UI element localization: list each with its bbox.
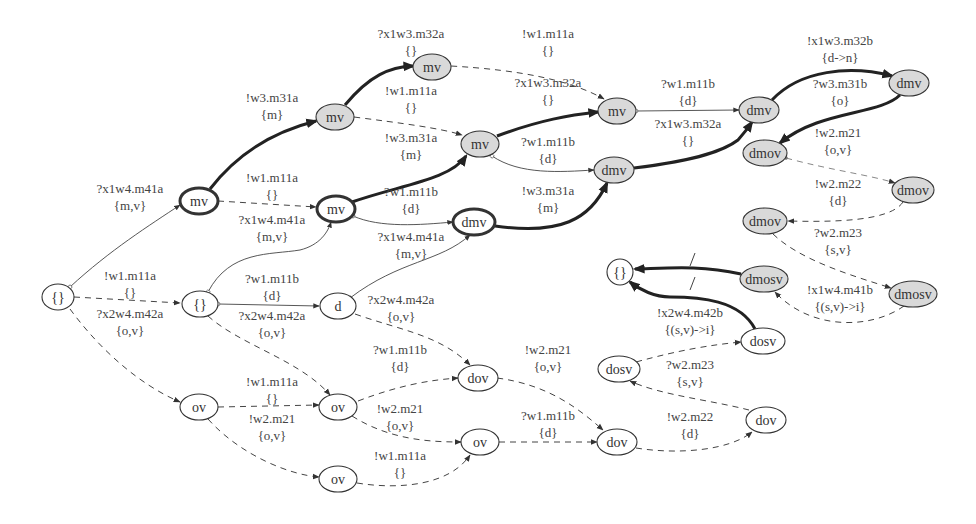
edge-action-label: !w2.m21 bbox=[377, 401, 424, 416]
edge-action-label: !w2.m22 bbox=[815, 176, 862, 191]
edge-set-label: {o,v} bbox=[116, 323, 145, 338]
state-node[interactable]: dmov bbox=[892, 177, 934, 203]
state-node[interactable]: mv bbox=[461, 131, 499, 157]
edge-set-label: {d->n} bbox=[821, 50, 858, 65]
state-label: dmosv bbox=[745, 272, 782, 287]
state-label: d bbox=[335, 299, 342, 314]
state-graph: ?x1w4.m41a{m,v}!w1.m11a{}?x2w4.m42a{o,v}… bbox=[0, 0, 976, 524]
edge-action-label: !w1.m11a bbox=[374, 448, 426, 463]
state-node[interactable]: ov bbox=[461, 429, 499, 455]
transition-edge bbox=[636, 110, 739, 111]
edge-set-label: {d} bbox=[679, 93, 698, 108]
state-node[interactable]: dmv bbox=[453, 209, 495, 235]
edge-set-label: {} bbox=[405, 100, 417, 115]
edge-action-label: ?w2.m23 bbox=[666, 357, 714, 372]
transition-edge bbox=[635, 268, 741, 274]
edge-action-label: !w3.m31a bbox=[246, 90, 299, 105]
state-label: dmv bbox=[897, 76, 922, 91]
edge-action-label: !w2.m21 bbox=[249, 411, 296, 426]
edge-set-label: {m} bbox=[261, 107, 284, 122]
edge-set-label: {o,v} bbox=[387, 309, 416, 324]
state-node[interactable]: mv bbox=[413, 54, 451, 80]
edge-set-label: {o} bbox=[831, 93, 850, 108]
edge-action-label: ?w1.m11b bbox=[521, 408, 575, 423]
state-node[interactable]: mv bbox=[317, 196, 355, 222]
edge-set-label: {d} bbox=[829, 193, 848, 208]
edge-action-label: ?x1w3.m32a bbox=[655, 116, 722, 131]
edge-action-label: !w1.m11a bbox=[246, 170, 298, 185]
edge-action-label: ?w1.m11b bbox=[245, 271, 299, 286]
state-label: dmv bbox=[747, 103, 772, 118]
state-label: dmv bbox=[602, 163, 627, 178]
edge-action-label: ?w3.m31b bbox=[813, 76, 868, 91]
edge-set-label: {} bbox=[266, 187, 278, 202]
state-node[interactable]: {} bbox=[42, 284, 74, 310]
state-label: mv bbox=[326, 110, 344, 125]
edge-set-label: {o,v} bbox=[824, 142, 853, 157]
edge-set-label: {o,v} bbox=[258, 428, 287, 443]
edge-set-label: {m,v} bbox=[256, 229, 288, 244]
edge-action-label: ?x1w3.m32a bbox=[515, 75, 582, 90]
state-node[interactable]: ov bbox=[319, 466, 357, 492]
state-node[interactable]: ov bbox=[319, 394, 357, 420]
edge-action-label: ?w1.m11b bbox=[384, 184, 438, 199]
state-node[interactable]: dosv bbox=[741, 328, 785, 354]
state-label: mv bbox=[471, 137, 489, 152]
state-node[interactable]: {} bbox=[182, 291, 218, 317]
edge-action-label: !x1w3.m32b bbox=[807, 33, 873, 48]
edge-set-label: {} bbox=[266, 391, 278, 406]
state-node[interactable]: {} bbox=[607, 259, 633, 285]
state-node[interactable]: dmv bbox=[889, 70, 929, 96]
edge-set-label: {d} bbox=[391, 359, 410, 374]
state-label: dosv bbox=[750, 334, 776, 349]
state-label: mv bbox=[608, 104, 626, 119]
state-node[interactable]: dov bbox=[597, 429, 637, 455]
edge-action-label: ?w1.m11b bbox=[521, 134, 575, 149]
edge-set-label: {s,v} bbox=[676, 374, 703, 389]
state-label: dmosv bbox=[894, 287, 931, 302]
edge-set-label: {m} bbox=[537, 200, 560, 215]
edge-action-label: ?x2w4.m42a bbox=[97, 306, 164, 321]
state-label: {} bbox=[613, 265, 626, 280]
edge-action-label: !w1.m11a bbox=[246, 374, 298, 389]
state-node[interactable]: ov bbox=[180, 394, 218, 420]
state-node[interactable]: dmov bbox=[743, 140, 787, 166]
edge-set-label: {} bbox=[542, 92, 554, 107]
state-label: {} bbox=[193, 297, 206, 312]
state-node[interactable]: mv bbox=[180, 188, 218, 214]
edge-action-label: !w1.m11a bbox=[522, 26, 574, 41]
state-label: dov bbox=[756, 413, 777, 428]
edge-set-label: {o,v} bbox=[386, 418, 415, 433]
state-node[interactable]: dmosv bbox=[740, 266, 788, 292]
transition-edge bbox=[497, 112, 598, 136]
state-node[interactable]: dmosv bbox=[889, 281, 937, 307]
edge-set-label: {} bbox=[405, 43, 417, 58]
state-label: mv bbox=[190, 194, 208, 209]
edge-set-label: {} bbox=[682, 133, 694, 148]
state-node[interactable]: mv bbox=[598, 98, 636, 124]
state-label: ov bbox=[192, 400, 206, 415]
state-node[interactable]: dosv bbox=[598, 356, 640, 382]
state-label: ov bbox=[473, 435, 487, 450]
state-node[interactable]: dmv bbox=[739, 97, 779, 123]
state-label: dmv bbox=[462, 215, 487, 230]
edge-action-label: ?w1.m11b bbox=[661, 76, 715, 91]
edge-set-label: {m,v} bbox=[395, 246, 427, 261]
state-label: mv bbox=[423, 60, 441, 75]
cut-mark bbox=[690, 253, 695, 266]
state-node[interactable]: dov bbox=[458, 365, 498, 391]
edge-action-label: !w2.m21 bbox=[525, 342, 572, 357]
transition-edge bbox=[353, 216, 453, 225]
state-node[interactable]: mv bbox=[316, 104, 354, 130]
state-node[interactable]: dmv bbox=[594, 157, 634, 183]
edge-set-label: {} bbox=[542, 43, 554, 58]
state-node[interactable]: d bbox=[320, 293, 356, 319]
edge-set-label: {d} bbox=[263, 288, 282, 303]
edge-set-label: {} bbox=[394, 465, 406, 480]
state-label: dov bbox=[468, 371, 489, 386]
state-node[interactable]: dov bbox=[746, 407, 786, 433]
state-node[interactable]: dmov bbox=[743, 208, 787, 234]
edge-action-label: !w3.m31a bbox=[522, 183, 575, 198]
state-label: dmov bbox=[897, 183, 929, 198]
state-label: dosv bbox=[606, 362, 632, 377]
